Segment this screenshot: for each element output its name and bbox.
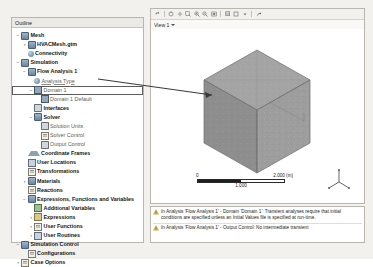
tree-item-label: Materials <box>37 177 60 186</box>
globe-icon <box>34 78 40 84</box>
tree-item-domain-1-default[interactable]: Domain 1 Default <box>12 95 143 104</box>
tree-item-solution-units[interactable]: Solution Units <box>12 122 143 131</box>
tree-item-label: Flow Analysis 1 <box>37 67 77 76</box>
tree-item-case-options[interactable]: ›Case Options <box>12 258 143 267</box>
viewer-panel: View 1 <box>150 8 365 204</box>
view-preset-icon[interactable] <box>233 11 239 17</box>
zoom-in-icon[interactable] <box>194 11 200 17</box>
tree-item-solver[interactable]: −Solver <box>12 113 143 122</box>
tree-item-label: Reactions <box>37 186 63 195</box>
pen-icon <box>34 104 42 112</box>
collapse-toggle-icon[interactable]: − <box>22 67 28 76</box>
tree-item-analysis-type[interactable]: Analysis Type <box>12 76 143 85</box>
tree-item-additional-variables[interactable]: Additional Variables <box>12 204 143 213</box>
sheet-icon <box>28 250 36 258</box>
tree-item-label: Solution Units <box>50 122 83 131</box>
cyl-icon <box>21 59 29 67</box>
tree-item-label: Domain 1 <box>44 86 67 95</box>
tree-item-domain-1[interactable]: −Domain 1 <box>12 86 143 95</box>
message-text: In Analysis 'Flow Analysis 1' - Domain '… <box>161 209 362 222</box>
dom-icon <box>41 95 49 103</box>
expand-toggle-icon[interactable]: › <box>22 177 28 186</box>
tab-view-1[interactable]: View 1 <box>154 22 175 28</box>
tree-item-label: Solver Control <box>50 131 84 140</box>
tree-item-mesh[interactable]: −Mesh <box>12 31 143 40</box>
pen-icon <box>41 141 49 149</box>
chevron-down-icon[interactable] <box>171 24 175 26</box>
sheet-icon <box>34 223 42 231</box>
domain-cube[interactable] <box>197 45 317 185</box>
tree-item-user-locations[interactable]: User Locations <box>12 158 143 167</box>
tree-item-simulation[interactable]: −Simulation <box>12 58 143 67</box>
tree-item-label: Additional Variables <box>44 204 96 213</box>
tree-item-connectivity[interactable]: Connectivity <box>12 49 143 58</box>
tree-item-hvacmesh-gtm[interactable]: ›HVACMesh.gtm <box>12 40 143 49</box>
sheet-icon <box>28 168 36 176</box>
collapse-toggle-icon[interactable]: − <box>22 195 28 204</box>
cyl-icon <box>34 113 42 121</box>
outline-title: Outline <box>15 20 32 26</box>
tree-item-label: Output Control <box>50 140 85 149</box>
fit-view-icon[interactable] <box>211 11 217 17</box>
outline-panel: Outline −Mesh›HVACMesh.gtmConnectivity−S… <box>11 17 144 243</box>
scale-bar-right-label: 2.000 (m) <box>273 173 293 178</box>
tree-item-flow-analysis-1[interactable]: −Flow Analysis 1 <box>12 67 143 76</box>
tree-item-transformations[interactable]: Transformations <box>12 167 143 176</box>
scale-bar-segment-empty <box>241 180 284 182</box>
pan-icon[interactable] <box>177 11 183 17</box>
tree-item-configurations[interactable]: Configurations <box>12 249 143 258</box>
tree-item-label: HVACMesh.gtm <box>37 40 77 49</box>
measure-icon[interactable] <box>256 11 262 17</box>
tree-item-label: Interfaces <box>44 104 69 113</box>
tree-item-label: Expressions <box>44 213 76 222</box>
warning-icon <box>153 209 159 215</box>
toolbar-separator <box>164 11 165 17</box>
axis-triad-icon <box>326 167 352 193</box>
viewer-toolbar <box>151 9 364 20</box>
warning-icon <box>153 225 159 231</box>
tree-item-user-functions[interactable]: ›User Functions <box>12 222 143 231</box>
pen-icon <box>41 122 49 130</box>
zoom-out-icon[interactable] <box>202 11 208 17</box>
tree-item-expressions-functions-and-variables[interactable]: −Expressions, Functions and Variables <box>12 195 143 204</box>
cyl-icon <box>21 241 29 249</box>
zoom-box-icon[interactable] <box>185 11 191 17</box>
tree-item-label: Simulation Control <box>31 240 79 249</box>
tree-item-label: Analysis Type <box>42 77 75 86</box>
sheet-icon <box>21 259 29 267</box>
viewer-canvas[interactable]: 0 2.000 (m) 1.000 <box>151 29 364 203</box>
tree-item-label: User Functions <box>44 222 83 231</box>
message-panel[interactable]: In Analysis 'Flow Analysis 1' - Domain '… <box>150 206 365 243</box>
cyl-icon <box>28 195 36 203</box>
tree-item-reactions[interactable]: Reactions <box>12 186 143 195</box>
toolbar-separator <box>220 11 221 17</box>
scale-bar: 0 2.000 (m) 1.000 <box>197 173 285 189</box>
tree-item-label: Domain 1 Default <box>50 95 92 104</box>
cyl-icon <box>28 41 36 49</box>
ylw-icon <box>34 213 42 221</box>
tree-item-interfaces[interactable]: Interfaces <box>12 104 143 113</box>
rotate-icon[interactable] <box>168 11 174 17</box>
tree-item-solver-control[interactable]: Solver Control <box>12 131 143 140</box>
cyl-icon <box>21 32 29 40</box>
tree-item-materials[interactable]: ›Materials <box>12 177 143 186</box>
tree-item-label: Coordinate Frames <box>41 149 90 158</box>
sheet-icon <box>41 132 49 140</box>
tree-item-simulation-control[interactable]: −Simulation Control <box>12 240 143 249</box>
tree-item-output-control[interactable]: Output Control <box>12 140 143 149</box>
outline-tree[interactable]: −Mesh›HVACMesh.gtmConnectivity−Simulatio… <box>12 28 143 267</box>
undo-icon[interactable] <box>154 11 160 17</box>
globe-icon <box>28 51 34 57</box>
tree-item-coordinate-frames[interactable]: Coordinate Frames <box>12 149 143 158</box>
render-mode-icon[interactable] <box>225 11 231 17</box>
tree-item-user-routines[interactable]: ›User Routines <box>12 231 143 240</box>
view-preset-dropdown-icon[interactable] <box>242 11 248 17</box>
tree-item-expressions[interactable]: ›Expressions <box>12 213 143 222</box>
cyl-icon <box>28 177 36 185</box>
scale-bar-mid-label: 1.000 <box>235 183 247 188</box>
dom-icon <box>34 86 42 94</box>
tree-item-label: User Routines <box>44 231 81 240</box>
expand-toggle-icon[interactable]: › <box>22 40 28 49</box>
sheet-icon <box>28 186 36 194</box>
